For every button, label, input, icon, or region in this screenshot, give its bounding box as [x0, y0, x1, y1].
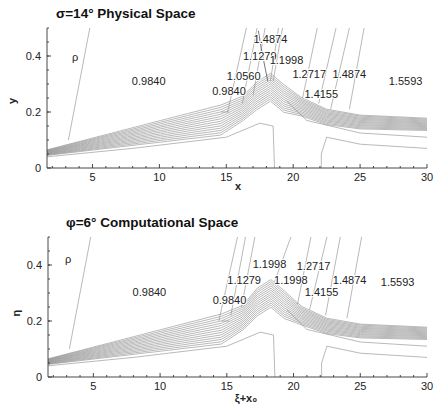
y-tick-label: 0.2 — [26, 106, 41, 118]
y-axis-label: η — [10, 309, 22, 316]
contour-value-label: 1.1998 — [270, 54, 304, 66]
contour-value-label: 1.5593 — [381, 276, 415, 288]
contour-value-label: 1.2717 — [292, 68, 326, 80]
x-tick-label: 10 — [153, 171, 165, 183]
x-tick-label: 10 — [154, 380, 166, 392]
x-tick-label: 25 — [354, 171, 366, 183]
contour-value-label: 1.4874 — [254, 33, 288, 45]
contour-value-label: 0.9840 — [132, 75, 166, 87]
contour-value-label: 1.4874 — [333, 68, 367, 80]
contour-value-label: 1.4155 — [305, 286, 339, 298]
contour-lines — [47, 28, 427, 168]
contour-value-label: 0.9840 — [133, 286, 167, 298]
contour-line — [69, 237, 90, 349]
contour-value-label: 0.9840 — [212, 85, 246, 97]
panel-title: φ=6° Computational Space — [66, 215, 239, 230]
panel-physical-space: σ=14° Physical Space 5101520253000.20.4 … — [6, 6, 433, 192]
contour-value-label: 1.4874 — [333, 274, 367, 286]
contour-line — [322, 346, 427, 377]
contour-value-label: 0.9840 — [213, 294, 247, 306]
contour-line — [310, 237, 327, 310]
field-label: ρ — [65, 253, 71, 265]
contour-value-label: 1.1279 — [227, 274, 261, 286]
x-tick-label: 5 — [90, 380, 96, 392]
field-label: ρ — [72, 51, 78, 63]
contour-value-label: 1.1998 — [274, 274, 308, 286]
contour-value-label: 1.1998 — [253, 258, 287, 270]
x-tick-label: 15 — [220, 171, 232, 183]
contour-value-label: 1.4155 — [304, 88, 338, 100]
axes: 5101520253000.20.4 — [27, 237, 433, 392]
contour-lines — [48, 237, 427, 377]
contour-line — [48, 305, 427, 364]
axes: 5101520253000.20.4 — [26, 28, 433, 183]
panel-computational-space: φ=6° Computational Space 5101520253000.2… — [10, 215, 433, 405]
x-tick-label: 30 — [421, 380, 433, 392]
contour-line — [68, 28, 89, 140]
x-tick-label: 25 — [354, 380, 366, 392]
y-axis-label: y — [6, 97, 18, 104]
figure: σ=14° Physical Space 5101520253000.20.4 … — [0, 0, 442, 412]
x-tick-label: 20 — [287, 171, 299, 183]
x-tick-label: 15 — [221, 380, 233, 392]
contour-value-label: 1.0560 — [227, 70, 261, 82]
x-axis-label: ξ+x₀ — [235, 392, 257, 405]
y-tick-label: 0.2 — [27, 315, 42, 327]
contour-value-label: 1.5593 — [389, 75, 423, 87]
panel-title: σ=14° Physical Space — [56, 6, 196, 21]
y-tick-label: 0 — [36, 371, 42, 383]
x-axis-label: x — [235, 180, 242, 192]
x-tick-label: 5 — [89, 171, 95, 183]
y-tick-label: 0.4 — [26, 50, 41, 62]
x-tick-label: 20 — [287, 380, 299, 392]
y-tick-label: 0 — [35, 162, 41, 174]
x-tick-label: 30 — [421, 171, 433, 183]
contour-value-label: 1.2717 — [297, 260, 331, 272]
contour-line — [321, 137, 427, 168]
y-tick-label: 0.4 — [27, 259, 42, 271]
